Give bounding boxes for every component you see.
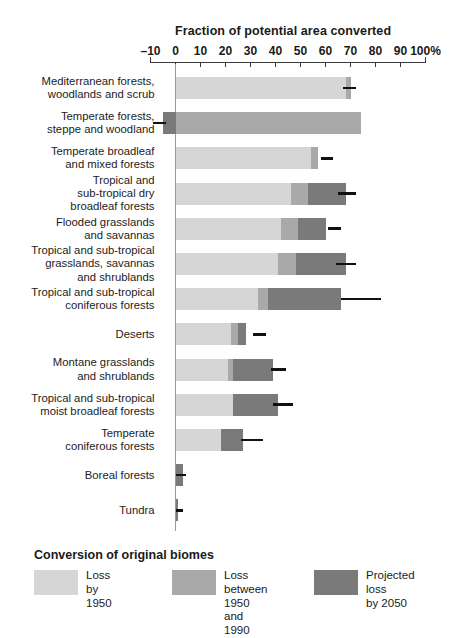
chart-row: Mediterranean forests,woodlands and scru… bbox=[0, 77, 453, 99]
error-bar bbox=[341, 298, 381, 301]
bar-segment bbox=[233, 359, 273, 381]
bar-segment bbox=[298, 218, 326, 240]
category-label-line: coniferous forests bbox=[7, 440, 155, 453]
category-label-line: Temperate bbox=[7, 427, 155, 440]
category-label-line: Boreal forests bbox=[7, 469, 155, 482]
category-label-line: Temperate broadleaf bbox=[7, 145, 155, 158]
bar-segment bbox=[176, 429, 221, 451]
bar-segment bbox=[238, 323, 246, 345]
category-label-line: Tundra bbox=[7, 504, 155, 517]
legend-label: Projected loss by 2050 bbox=[366, 569, 415, 610]
category-label-line: woodlands and scrub bbox=[7, 88, 155, 101]
bar-segment bbox=[231, 323, 239, 345]
category-label-line: coniferous forests bbox=[7, 299, 155, 312]
chart-row: Tropical and sub-tropicalmoist broadleaf… bbox=[0, 394, 453, 416]
category-label-line: Flooded grasslands bbox=[7, 216, 155, 229]
category-label: Deserts bbox=[7, 328, 155, 341]
category-label-line: Montane grasslands bbox=[7, 356, 155, 369]
error-bar bbox=[336, 263, 356, 266]
category-label: Tundra bbox=[7, 504, 155, 517]
category-label: Boreal forests bbox=[7, 469, 155, 482]
legend-swatch bbox=[314, 570, 358, 595]
bar-segment bbox=[176, 147, 311, 169]
category-label-line: steppe and woodland bbox=[7, 123, 155, 136]
error-bar bbox=[241, 439, 264, 442]
chart-row: Tropical and sub-tropicalgrasslands, sav… bbox=[0, 253, 453, 275]
bar-segment bbox=[176, 359, 229, 381]
bar-segment bbox=[176, 77, 346, 99]
legend: Conversion of original biomes Loss by 19… bbox=[24, 548, 432, 606]
error-bar bbox=[343, 87, 356, 90]
category-label: Temperate broadleafand mixed forests bbox=[7, 145, 155, 171]
error-bar bbox=[253, 333, 266, 336]
category-label: Temperate forests,steppe and woodland bbox=[7, 110, 155, 136]
category-label-line: broadleaf forests bbox=[7, 200, 155, 213]
chart-row: Flooded grasslandsand savannas bbox=[0, 218, 453, 240]
category-label-line: Deserts bbox=[7, 328, 155, 341]
legend-title: Conversion of original biomes bbox=[34, 548, 214, 562]
bar-segment bbox=[311, 147, 319, 169]
chart-row: Tropical andsub-tropical drybroadleaf fo… bbox=[0, 183, 453, 205]
error-bar bbox=[153, 122, 166, 125]
chart-row: Temperate forests,steppe and woodland bbox=[0, 112, 453, 134]
error-bar bbox=[176, 509, 184, 512]
category-label-line: grasslands, savannas bbox=[7, 257, 155, 270]
chart-row: Tropical and sub-tropicalconiferous fore… bbox=[0, 288, 453, 310]
bar-segment bbox=[176, 112, 361, 134]
category-label-line: sub-tropical dry bbox=[7, 187, 155, 200]
category-label-line: Tropical and bbox=[7, 174, 155, 187]
bar-segment bbox=[233, 394, 278, 416]
bar-segment bbox=[291, 183, 309, 205]
category-label: Tropical andsub-tropical drybroadleaf fo… bbox=[7, 174, 155, 214]
error-bar bbox=[328, 227, 341, 230]
category-label-line: and shrublands bbox=[7, 370, 155, 383]
error-bar bbox=[271, 368, 286, 371]
category-label-line: and mixed forests bbox=[7, 158, 155, 171]
chart-row: Tundra bbox=[0, 499, 453, 521]
legend-swatch bbox=[34, 570, 78, 595]
category-label: Flooded grasslandsand savannas bbox=[7, 216, 155, 242]
category-label-line: and shrublands bbox=[7, 271, 155, 284]
chart-row: Boreal forests bbox=[0, 464, 453, 486]
bar-segment bbox=[176, 323, 231, 345]
bar-segment bbox=[176, 218, 281, 240]
category-label: Tropical and sub-tropicalgrasslands, sav… bbox=[7, 244, 155, 284]
bar-segment bbox=[268, 288, 341, 310]
bar-segment bbox=[176, 253, 279, 275]
bar-segment bbox=[176, 288, 259, 310]
error-bar bbox=[176, 474, 186, 477]
bar-segment bbox=[281, 218, 299, 240]
chart-row: Deserts bbox=[0, 323, 453, 345]
bar-segment bbox=[278, 253, 296, 275]
error-bar bbox=[338, 192, 356, 195]
error-bar bbox=[273, 403, 293, 406]
legend-label: Loss between 1950 and 1990 bbox=[224, 569, 267, 638]
category-label: Montane grasslandsand shrublands bbox=[7, 356, 155, 382]
category-label: Mediterranean forests,woodlands and scru… bbox=[7, 75, 155, 101]
error-bar bbox=[321, 157, 334, 160]
category-label: Tropical and sub-tropicalmoist broadleaf… bbox=[7, 392, 155, 418]
legend-swatch bbox=[172, 570, 216, 595]
chart-row: Temperate broadleafand mixed forests bbox=[0, 147, 453, 169]
category-label-line: Tropical and sub-tropical bbox=[7, 286, 155, 299]
category-label-line: moist broadleaf forests bbox=[7, 405, 155, 418]
chart-row: Montane grasslandsand shrublands bbox=[0, 359, 453, 381]
category-label-line: and savannas bbox=[7, 229, 155, 242]
category-label-line: Tropical and sub-tropical bbox=[7, 392, 155, 405]
bar-segment bbox=[258, 288, 268, 310]
legend-label: Loss by 1950 bbox=[86, 569, 112, 610]
category-label-line: Tropical and sub-tropical bbox=[7, 244, 155, 257]
category-label: Tropical and sub-tropicalconiferous fore… bbox=[7, 286, 155, 312]
chart-row: Temperateconiferous forests bbox=[0, 429, 453, 451]
category-label-line: Temperate forests, bbox=[7, 110, 155, 123]
bar-segment bbox=[176, 183, 291, 205]
category-label: Temperateconiferous forests bbox=[7, 427, 155, 453]
bar-segment bbox=[176, 394, 234, 416]
category-label-line: Mediterranean forests, bbox=[7, 75, 155, 88]
